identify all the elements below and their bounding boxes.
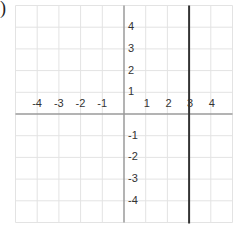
y-tick-label: 1	[128, 86, 134, 97]
y-tick-label: -3	[128, 173, 138, 184]
x-tick-label: 2	[165, 98, 171, 109]
x-tick-label: 3	[187, 98, 193, 109]
y-tick-label: 4	[128, 21, 134, 32]
x-tick-label: -1	[97, 98, 107, 109]
y-tick-label: -2	[128, 151, 138, 162]
x-tick-label: 1	[144, 98, 150, 109]
x-tick-label: -4	[32, 98, 42, 109]
x-tick-label: -3	[54, 98, 64, 109]
x-tick-label: -2	[76, 98, 86, 109]
x-tick-label: 4	[209, 98, 215, 109]
graph-canvas	[0, 0, 238, 232]
y-tick-label: 3	[128, 43, 134, 54]
coordinate-plane: ) -4-3-2-112344321-1-2-3-4	[0, 0, 238, 232]
y-tick-label: -1	[128, 130, 138, 141]
y-tick-label: 2	[128, 65, 134, 76]
y-tick-label: -4	[128, 195, 138, 206]
